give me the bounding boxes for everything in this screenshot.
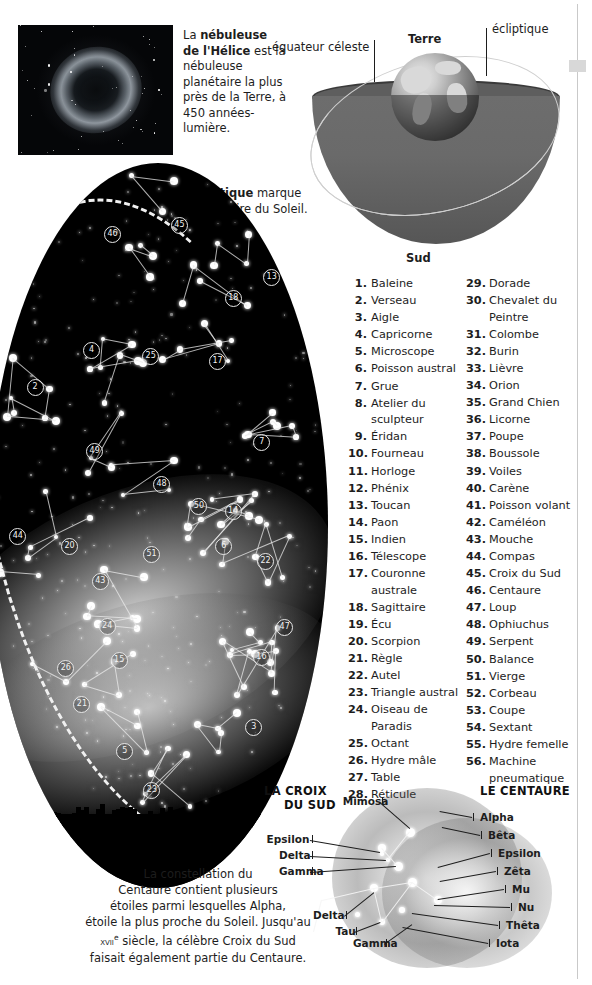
constellation-name: Centaure <box>489 583 584 600</box>
constellation-name: Hydre mâle <box>371 753 466 770</box>
constellation-entry: 22.Autel <box>348 668 466 685</box>
constellation-entry: 41.Poisson volant <box>466 498 584 515</box>
chart-star <box>81 637 82 638</box>
chart-star <box>232 288 233 289</box>
crux-title-line-2: DU SUD <box>284 798 336 812</box>
constellation-number: 18. <box>348 600 367 617</box>
star-label-nu: Nu <box>518 901 534 913</box>
chart-star <box>152 612 153 613</box>
constellation-column-right: 29.Dorade30.Chevalet du Peintre31.Colomb… <box>466 276 584 788</box>
chart-star <box>116 302 117 303</box>
constellation-name: Colombe <box>489 327 584 344</box>
constellation-entry: 54.Sextant <box>466 720 584 737</box>
chart-star <box>0 568 4 576</box>
photo-star <box>27 80 28 81</box>
photo-star <box>158 89 160 91</box>
constellation-name: Poisson volant <box>489 498 584 515</box>
chart-star <box>133 292 134 293</box>
constellation-entry: 47.Loup <box>466 600 584 617</box>
chart-marker-18: 18 <box>225 290 242 307</box>
label-tick <box>491 849 492 857</box>
ecliptic-orbit-ring-front <box>293 32 576 241</box>
constellation-number: 1. <box>348 276 367 293</box>
chart-star <box>103 696 104 697</box>
constellation-name: Ophiuchus <box>489 617 584 634</box>
constellation-name: Indien <box>371 532 466 549</box>
constellation-entry: 14.Paon <box>348 515 466 532</box>
chart-star <box>47 679 49 681</box>
constellation-number: 14. <box>348 515 367 532</box>
constellation-number: 10. <box>348 446 367 463</box>
constellation-entry: 32.Burin <box>466 344 584 361</box>
chart-marker-4: 4 <box>83 342 100 359</box>
constellation-entry: 53.Coupe <box>466 703 584 720</box>
constellation-name: Octant <box>371 736 466 753</box>
constellation-entry: 43.Mouche <box>466 532 584 549</box>
caption-century: xvii <box>100 936 114 947</box>
chart-marker-15: 15 <box>111 652 128 669</box>
constellation-entry: 7.Grue <box>348 379 466 396</box>
constellation-name: Triangle austral <box>371 685 466 702</box>
constellation-entry: 37.Poupe <box>466 429 584 446</box>
chart-star <box>171 213 172 214</box>
star-label-epsilon: Epsilon <box>498 847 541 859</box>
constellation-number: 39. <box>466 464 485 481</box>
chart-star <box>314 431 315 432</box>
chart-star <box>107 415 108 416</box>
constellation-entry: 12.Phénix <box>348 481 466 498</box>
constellation-entry: 13.Toucan <box>348 498 466 515</box>
constellation-entry: 8.Atelier du sculpteur <box>348 396 466 429</box>
constellation-entry: 15.Indien <box>348 532 466 549</box>
constellation-entry: 2.Verseau <box>348 293 466 310</box>
label-celestial-equator: équateur céleste <box>272 40 369 54</box>
page-tab-marker <box>569 60 586 72</box>
label-tick <box>312 851 313 859</box>
label-tick <box>505 885 506 893</box>
chart-star <box>296 545 297 546</box>
constellation-number: 23. <box>348 685 367 702</box>
constellation-entry: 23.Triangle austral <box>348 685 466 702</box>
chart-star <box>170 313 172 315</box>
chart-marker-14: 14 <box>225 503 242 520</box>
photo-star <box>149 44 150 45</box>
chart-star <box>217 223 218 224</box>
constellation-name: Capricorne <box>371 327 466 344</box>
chart-marker-13: 13 <box>263 269 280 286</box>
constellation-number: 54. <box>466 720 485 737</box>
constellation-number: 44. <box>466 549 485 566</box>
chart-star <box>31 357 32 358</box>
chart-marker-21: 21 <box>73 696 90 713</box>
constellation-number: 8. <box>348 396 367 429</box>
sky-field: 2345671314151617182021222324252643444546… <box>0 163 328 888</box>
chart-star <box>280 616 281 617</box>
label-south: Sud <box>406 251 431 265</box>
chart-marker-45: 45 <box>171 217 188 234</box>
chart-star <box>161 335 162 336</box>
constellation-line <box>217 243 247 264</box>
chart-star <box>292 537 293 538</box>
constellation-entry: 35.Grand Chien <box>466 395 584 412</box>
helix-nebula-photo <box>18 25 173 155</box>
constellation-name: Phénix <box>371 481 466 498</box>
constellation-name: Croix du Sud <box>489 566 584 583</box>
chart-star <box>127 191 128 192</box>
constellation-name: Couronne australe <box>371 566 466 599</box>
chart-star <box>58 241 60 243</box>
constellation-number: 4. <box>348 327 367 344</box>
chart-star <box>72 496 74 498</box>
chart-star <box>295 357 297 359</box>
label-tick <box>473 813 474 821</box>
star-label-alpha: Alpha <box>480 811 514 823</box>
constellation-number: 51. <box>466 669 485 686</box>
constellation-number: 33. <box>466 361 485 378</box>
crux-title-line-1: LA CROIX <box>264 784 327 798</box>
constellation-entry: 46.Centaure <box>466 583 584 600</box>
southern-sky-star-chart: 2345671314151617182021222324252643444546… <box>0 163 328 888</box>
constellation-number: 49. <box>466 634 485 651</box>
chart-star <box>108 393 109 394</box>
constellation-name: Orion <box>489 378 584 395</box>
chart-star <box>183 788 184 789</box>
chart-star <box>85 719 86 720</box>
chart-star <box>230 278 231 279</box>
chart-star <box>89 227 90 228</box>
